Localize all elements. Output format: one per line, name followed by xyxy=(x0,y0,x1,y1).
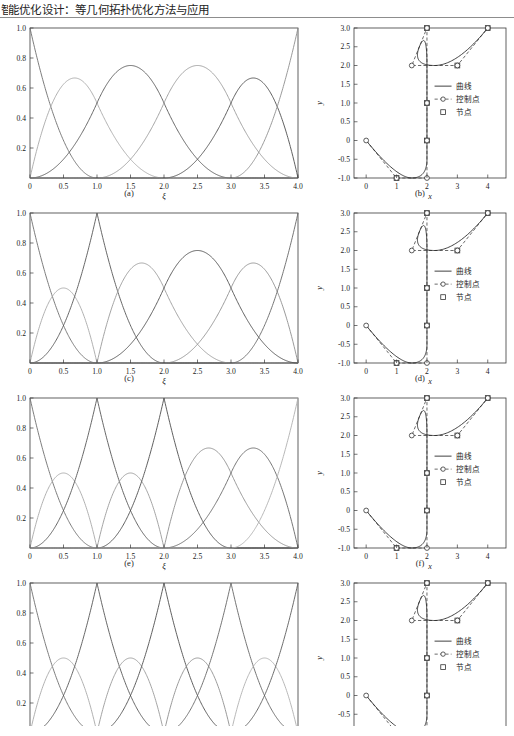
legend-label-curve: 曲线 xyxy=(456,81,472,91)
y-tick-label: -0.5 xyxy=(338,340,350,349)
basis-curve xyxy=(30,473,298,548)
panel-caption: (f) xyxy=(318,558,514,568)
control-point-marker xyxy=(485,211,490,216)
control-point-marker xyxy=(364,508,369,513)
figure-panel-b: -1.0-0.500.51.01.52.02.53.001234xy曲线控制点节… xyxy=(310,20,514,205)
y-tick-label: -0.5 xyxy=(338,155,350,164)
legend-label-control-points: 控制点 xyxy=(456,94,480,104)
control-point-marker xyxy=(364,693,369,698)
plot-frame xyxy=(354,398,506,548)
control-point-marker xyxy=(409,618,414,623)
control-point-marker xyxy=(425,471,430,476)
panel-caption: (e) xyxy=(0,558,284,568)
y-tick-label: 2.0 xyxy=(341,61,351,70)
y-tick-label: -1.0 xyxy=(338,174,350,183)
y-tick-label: 1.0 xyxy=(17,24,27,33)
basis-curve xyxy=(30,263,298,363)
control-point-marker xyxy=(425,693,430,698)
y-tick-label: 3.0 xyxy=(341,24,351,33)
legend-control-marker xyxy=(441,282,445,286)
y-tick-label: 0 xyxy=(346,691,350,700)
y-tick-label: -0.5 xyxy=(338,710,350,719)
basis-function-plot: 0.20.40.60.81.000.51.01.52.02.53.03.54.0… xyxy=(0,20,310,205)
panel-caption: (a) xyxy=(0,188,284,198)
basis-curve xyxy=(30,66,298,179)
basis-curve xyxy=(30,78,298,178)
control-point-marker xyxy=(425,286,430,291)
y-tick-label: 2.0 xyxy=(341,246,351,255)
y-tick-label: 1.0 xyxy=(17,209,27,218)
legend-knot-marker xyxy=(441,295,446,300)
figure-panel-g: 0.20.40.60.81.000.51.01.52.02.53.03.54.0… xyxy=(0,575,310,726)
y-tick-label: 0.4 xyxy=(17,299,27,308)
legend-label-knots: 节点 xyxy=(456,663,472,672)
x-tick-label: 4.0 xyxy=(293,367,303,376)
control-point-marker xyxy=(425,581,430,586)
figure-panel-e: 0.20.40.60.81.000.51.01.52.02.53.03.54.0… xyxy=(0,390,310,575)
control-point-marker xyxy=(409,248,414,253)
legend-label-knots: 节点 xyxy=(456,293,472,302)
y-axis-title: y xyxy=(315,471,324,476)
control-point-marker xyxy=(425,396,430,401)
basis-curve xyxy=(30,473,298,548)
control-point-marker xyxy=(455,63,460,68)
y-tick-label: 1.0 xyxy=(17,579,27,588)
basis-curve xyxy=(30,398,298,548)
control-point-marker xyxy=(425,101,430,106)
control-point-marker xyxy=(485,396,490,401)
basis-curve xyxy=(30,658,298,726)
control-point-marker xyxy=(409,63,414,68)
basis-curve xyxy=(30,583,298,726)
control-point-marker xyxy=(455,618,460,623)
basis-curve xyxy=(30,251,298,364)
legend-label-control-points: 控制点 xyxy=(456,649,480,659)
basis-curve xyxy=(30,398,298,548)
y-tick-label: 1.5 xyxy=(341,265,351,274)
y-tick-label: 1.5 xyxy=(341,80,351,89)
legend-control-marker xyxy=(441,652,445,656)
page-title: 智能优化设计：等几何拓扑优化方法与应用 xyxy=(1,1,210,17)
y-tick-label: 0 xyxy=(346,136,350,145)
basis-curve xyxy=(30,658,298,726)
basis-curve xyxy=(30,658,298,726)
figure-panel-f: -1.0-0.500.51.01.52.02.53.001234xy曲线控制点节… xyxy=(310,390,514,575)
x-tick-label: 4.0 xyxy=(293,182,303,191)
legend-label-knots: 节点 xyxy=(456,108,472,117)
y-tick-label: 0.6 xyxy=(17,639,27,648)
page-header: 智能优化设计：等几何拓扑优化方法与应用 xyxy=(0,0,514,20)
control-point-marker xyxy=(455,248,460,253)
y-tick-label: 1.0 xyxy=(341,99,351,108)
control-point-marker xyxy=(485,581,490,586)
plot-frame xyxy=(30,398,298,548)
legend-label-curve: 曲线 xyxy=(456,266,472,276)
y-tick-label: 2.5 xyxy=(341,227,351,236)
plot-frame xyxy=(354,583,506,726)
y-tick-label: -0.5 xyxy=(338,525,350,534)
legend-knot-marker xyxy=(441,480,446,485)
panel-caption: (c) xyxy=(0,373,284,383)
y-tick-label: 0.5 xyxy=(341,302,351,311)
basis-function-plot: 0.20.40.60.81.000.51.01.52.02.53.03.54.0… xyxy=(0,390,310,575)
y-tick-label: 0 xyxy=(346,506,350,515)
y-tick-label: -1.0 xyxy=(338,544,350,553)
basis-curve xyxy=(30,583,298,726)
y-tick-label: 0.2 xyxy=(17,514,27,523)
legend-control-marker xyxy=(441,467,445,471)
y-tick-label: 0.8 xyxy=(17,424,27,433)
figure-grid: 0.20.40.60.81.000.51.01.52.02.53.03.54.0… xyxy=(0,20,514,736)
basis-curve xyxy=(30,66,298,179)
y-tick-label: 0.4 xyxy=(17,114,27,123)
y-tick-label: 1.5 xyxy=(341,635,351,644)
basis-curve xyxy=(30,583,298,726)
control-point-marker xyxy=(425,508,430,513)
y-tick-label: 1.0 xyxy=(341,469,351,478)
y-tick-label: 3.0 xyxy=(341,579,351,588)
basis-curve xyxy=(30,448,298,548)
control-point-marker xyxy=(485,26,490,31)
basis-curve xyxy=(30,658,298,726)
y-tick-label: 0.6 xyxy=(17,269,27,278)
legend-label-control-points: 控制点 xyxy=(456,464,480,474)
basis-function-plot: 0.20.40.60.81.000.51.01.52.02.53.03.54.0… xyxy=(0,575,310,726)
y-tick-label: 0 xyxy=(346,321,350,330)
legend-knot-marker xyxy=(441,665,446,670)
